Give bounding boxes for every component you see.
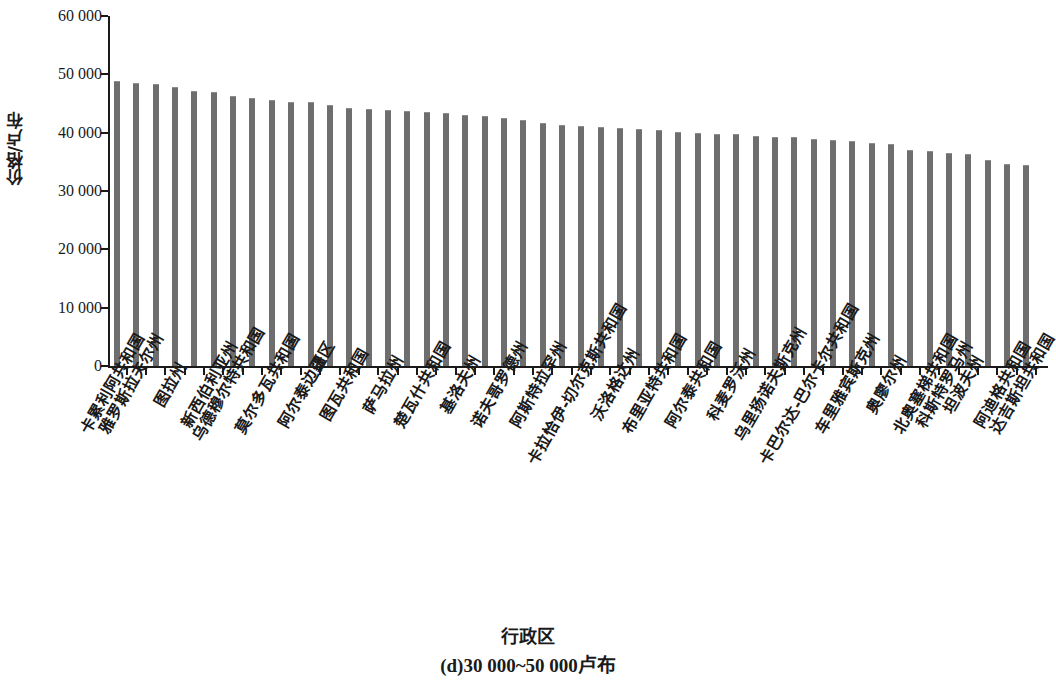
bar — [211, 92, 217, 366]
bar — [172, 87, 178, 366]
y-axis-tick-mark — [101, 248, 108, 250]
bar — [424, 112, 430, 366]
bar — [540, 123, 546, 366]
bar — [230, 96, 236, 366]
y-axis-tick-label: 50 000 — [28, 66, 102, 82]
bar — [308, 102, 314, 366]
bar — [772, 137, 778, 366]
y-axis-tick-label: 20 000 — [28, 241, 102, 257]
bar — [811, 139, 817, 366]
bar — [656, 130, 662, 366]
bar — [1023, 165, 1029, 366]
y-axis-tick-mark — [101, 365, 108, 367]
bar — [907, 150, 913, 366]
bar — [559, 125, 565, 367]
bar — [404, 111, 410, 366]
y-axis-tick-mark — [101, 307, 108, 309]
bar — [985, 160, 991, 367]
x-axis-tick-labels: 卡累利阿共和国雅罗斯拉夫尔州图拉州新西伯利亚州乌德穆尔特共和国莫尔多瓦共和国阿尔… — [0, 368, 1056, 618]
bar — [733, 134, 739, 366]
bar — [114, 81, 120, 366]
bar — [965, 154, 971, 366]
y-axis-tick-mark — [101, 15, 108, 17]
plot-area — [108, 16, 1048, 368]
bar — [462, 115, 468, 366]
bar — [191, 91, 197, 366]
y-axis-tick-labels: 010 00020 00030 00040 00050 00060 000 — [28, 0, 102, 380]
bar — [753, 136, 759, 366]
bar-series — [110, 16, 1048, 366]
y-axis-tick-label: 10 000 — [28, 300, 102, 316]
x-axis-title: 行政区 — [0, 622, 1056, 648]
y-axis-tick-label: 40 000 — [28, 125, 102, 141]
bar — [501, 118, 507, 367]
bar — [849, 141, 855, 366]
bar — [520, 120, 526, 366]
bar — [927, 151, 933, 366]
y-axis-tick-mark — [101, 190, 108, 192]
figure-caption: (d)30 000~50 000卢布 — [0, 650, 1056, 677]
bar — [288, 102, 294, 366]
bar — [327, 105, 333, 366]
bar-chart-figure: 价格/卢布 010 00020 00030 00040 00050 00060 … — [0, 0, 1056, 682]
y-axis-tick-mark — [101, 132, 108, 134]
bar — [346, 108, 352, 366]
bar — [385, 110, 391, 366]
bar — [636, 129, 642, 366]
bar — [443, 113, 449, 366]
bar — [482, 116, 488, 366]
y-axis-tick-label: 60 000 — [28, 8, 102, 24]
bar — [1004, 164, 1010, 366]
bar — [153, 84, 159, 366]
bar — [578, 126, 584, 366]
y-axis-tick-mark — [101, 73, 108, 75]
bar — [714, 134, 720, 366]
bar — [133, 83, 139, 366]
bar — [888, 144, 894, 366]
bar — [695, 133, 701, 366]
bar — [269, 100, 275, 366]
bar — [366, 109, 372, 366]
y-axis-tick-label: 30 000 — [28, 183, 102, 199]
